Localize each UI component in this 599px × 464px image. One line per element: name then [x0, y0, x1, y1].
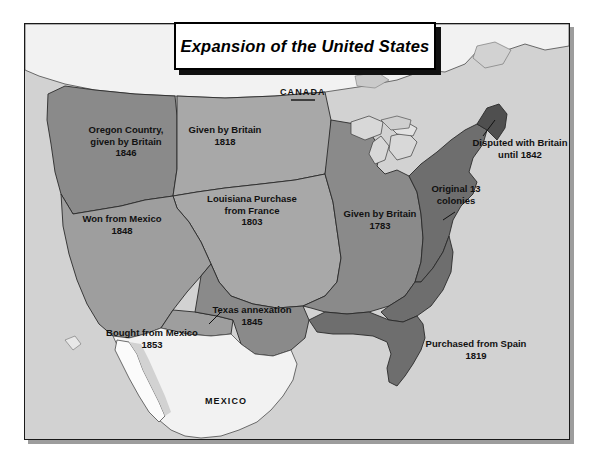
map-figure: CANADA MEXICO Oregon Country, given by B…	[0, 0, 599, 464]
label-gadsden-purchase: Bought from Mexico 1853	[84, 327, 220, 350]
label-gadsden-purchase-line2: 1853	[84, 339, 220, 351]
label-texas-annexation-line2: 1845	[191, 316, 313, 328]
country-label-canada: CANADA	[280, 87, 326, 97]
label-louisiana-purchase: Louisiana Purchase from France 1803	[189, 193, 315, 228]
label-original-13-colonies-line1: Original 13	[416, 183, 496, 195]
label-given-by-britain-1783: Given by Britain 1783	[322, 208, 438, 231]
label-original-13-colonies-line2: colonies	[416, 195, 496, 207]
label-disputed-with-britain-line1: Disputed with Britain	[462, 137, 570, 149]
label-gadsden-purchase-line1: Bought from Mexico	[84, 327, 220, 339]
label-given-by-britain-1783-line2: 1783	[322, 220, 438, 232]
title-box: Expansion of the United States	[174, 22, 436, 70]
label-texas-annexation-line1: Texas annexation	[191, 304, 313, 316]
label-florida-purchase: Purchased from Spain 1819	[408, 338, 544, 361]
label-mexican-cession-line1: Won from Mexico	[59, 213, 185, 225]
label-mexican-cession-line2: 1848	[59, 225, 185, 237]
label-given-by-britain-1783-line1: Given by Britain	[322, 208, 438, 220]
page-title: Expansion of the United States	[181, 37, 430, 56]
label-given-by-britain-1818: Given by Britain 1818	[167, 124, 283, 147]
label-texas-annexation: Texas annexation 1845	[191, 304, 313, 327]
label-original-13-colonies: Original 13 colonies	[416, 183, 496, 206]
label-disputed-with-britain: Disputed with Britain until 1842	[462, 137, 570, 160]
label-oregon-country-line3: 1846	[61, 147, 191, 159]
label-florida-purchase-line2: 1819	[408, 350, 544, 362]
label-disputed-with-britain-line2: until 1842	[462, 149, 570, 161]
label-florida-purchase-line1: Purchased from Spain	[408, 338, 544, 350]
label-louisiana-purchase-line1: Louisiana Purchase	[189, 193, 315, 205]
label-given-by-britain-1818-line2: 1818	[167, 136, 283, 148]
map-frame: CANADA MEXICO Oregon Country, given by B…	[24, 23, 570, 440]
label-mexican-cession: Won from Mexico 1848	[59, 213, 185, 236]
label-given-by-britain-1818-line1: Given by Britain	[167, 124, 283, 136]
country-label-mexico: MEXICO	[205, 396, 247, 406]
label-louisiana-purchase-line2: from France	[189, 205, 315, 217]
label-louisiana-purchase-line3: 1803	[189, 216, 315, 228]
